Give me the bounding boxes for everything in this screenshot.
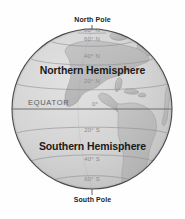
south-pole-label: South Pole [0,196,185,203]
northern-hemisphere-label: Northern Hemisphere [0,64,185,76]
latitude-label: 80° N [84,27,100,33]
latitude-label: 60° S [84,176,100,182]
latitude-label: 60° N [84,36,100,42]
equator-label: EQUATOR [28,98,69,107]
latitude-label: 40° N [84,53,100,59]
latitude-label: 20° S [84,127,100,133]
arctic-island-small [129,30,139,37]
north-pole-label: North Pole [0,16,185,23]
latitude-label: 40° S [84,156,100,162]
latitude-label: 0° [92,101,98,107]
southern-hemisphere-label: Southern Hemisphere [0,140,185,152]
latitude-label: 20° N [84,78,100,84]
